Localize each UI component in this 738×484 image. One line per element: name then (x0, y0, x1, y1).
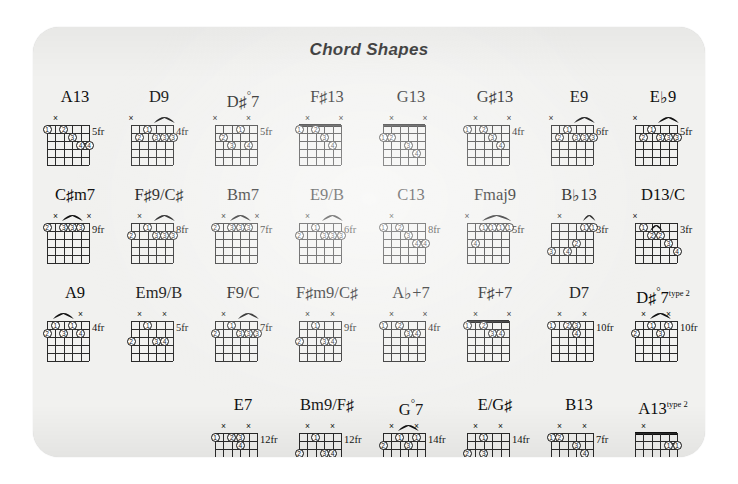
finger-dot[interactable]: 1 (211, 433, 220, 442)
finger-dot[interactable]: 1 (479, 223, 488, 232)
finger-dot[interactable]: 2 (295, 337, 304, 346)
finger-dot[interactable]: 1 (496, 223, 505, 232)
finger-dot[interactable]: 4 (572, 329, 581, 338)
chord-diagram[interactable]: G13××1234 (369, 87, 453, 183)
finger-dot[interactable]: 1 (379, 223, 388, 232)
chord-diagram[interactable]: A13type 2×11234 (621, 395, 705, 457)
finger-dot[interactable]: 4 (236, 441, 245, 450)
finger-dot[interactable]: 2 (227, 433, 236, 442)
chord-diagram[interactable]: F9/C×123337fr (201, 283, 285, 379)
finger-dot[interactable]: 3 (404, 441, 413, 450)
finger-dot[interactable]: 1 (580, 223, 589, 232)
finger-dot[interactable]: 3 (59, 329, 68, 338)
finger-dot[interactable]: 2 (395, 223, 404, 232)
chord-diagram[interactable]: D♯°7type 2××112310fr (621, 283, 705, 379)
finger-dot[interactable]: 4 (244, 141, 253, 150)
chord-diagram[interactable]: A9×112344fr (33, 283, 117, 379)
chord-diagram[interactable]: D13/C×122343fr (621, 185, 705, 281)
finger-dot[interactable]: 2 (395, 321, 404, 330)
chord-diagram[interactable]: B13××12347fr (537, 395, 621, 457)
finger-dot[interactable]: 4 (488, 457, 497, 458)
chord-diagram[interactable]: Fmaj9×111145fr (453, 185, 537, 281)
finger-dot[interactable]: 4 (328, 337, 337, 346)
chord-diagram[interactable]: F♯9/C♯×123338fr (117, 185, 201, 281)
finger-dot[interactable]: 1 (463, 125, 472, 134)
finger-dot[interactable]: 2 (572, 239, 581, 248)
finger-dot[interactable]: 4 (496, 329, 505, 338)
finger-dot[interactable]: 3 (328, 231, 337, 240)
chord-diagram[interactable]: C13×123448fr (369, 185, 453, 281)
finger-dot[interactable]: 3 (580, 133, 589, 142)
chord-diagram[interactable]: A13×123445fr (33, 87, 117, 183)
finger-dot[interactable]: 3 (244, 223, 253, 232)
finger-dot[interactable]: 1 (664, 441, 673, 450)
finger-dot[interactable]: 2 (295, 449, 304, 458)
finger-dot[interactable]: 3 (572, 441, 581, 450)
finger-dot[interactable]: 1 (227, 321, 236, 330)
finger-dot[interactable]: 2 (311, 125, 320, 134)
finger-dot[interactable]: 1 (673, 441, 682, 450)
finger-dot[interactable]: 2 (379, 441, 388, 450)
finger-dot[interactable]: 1 (143, 125, 152, 134)
chord-diagram[interactable]: F♯+7××1234 (453, 283, 537, 379)
finger-dot[interactable]: 4 (328, 449, 337, 458)
finger-dot[interactable]: 1 (412, 433, 421, 442)
finger-dot[interactable]: 4 (412, 239, 421, 248)
finger-dot[interactable]: 4 (421, 239, 430, 248)
finger-dot[interactable]: 4 (563, 247, 572, 256)
finger-dot[interactable]: 2 (59, 125, 68, 134)
chord-diagram[interactable]: Bm9/F♯××123412fr (285, 395, 369, 457)
finger-dot[interactable]: 3 (664, 133, 673, 142)
finger-dot[interactable]: 4 (76, 141, 85, 150)
finger-dot[interactable]: 2 (211, 223, 220, 232)
chord-diagram[interactable]: A♭+7××12344fr (369, 283, 453, 379)
finger-dot[interactable]: 2 (639, 133, 648, 142)
finger-dot[interactable]: 2 (127, 231, 136, 240)
finger-dot[interactable]: 2 (43, 329, 52, 338)
finger-dot[interactable]: 2 (479, 321, 488, 330)
finger-dot[interactable]: 4 (580, 449, 589, 458)
chord-diagram[interactable]: Bm7××23337fr (201, 185, 285, 281)
finger-dot[interactable]: 2 (479, 125, 488, 134)
finger-dot[interactable]: 2 (135, 133, 144, 142)
finger-dot[interactable]: 3 (244, 329, 253, 338)
finger-dot[interactable]: 1 (51, 321, 60, 330)
finger-dot[interactable]: 3 (479, 449, 488, 458)
finger-dot[interactable]: 1 (479, 433, 488, 442)
finger-dot[interactable]: 2 (295, 231, 304, 240)
finger-dot[interactable]: 1 (379, 321, 388, 330)
chord-diagram[interactable]: D9×123334fr (117, 87, 201, 183)
finger-dot[interactable]: 4 (496, 141, 505, 150)
finger-dot[interactable]: 2 (219, 133, 228, 142)
chord-diagram[interactable]: Em9/B××12345fr (117, 283, 201, 379)
finger-dot[interactable]: 4 (412, 329, 421, 338)
finger-dot[interactable]: 1 (143, 223, 152, 232)
finger-dot[interactable]: 2 (563, 321, 572, 330)
finger-dot[interactable]: 3 (320, 133, 329, 142)
finger-dot[interactable]: 3 (76, 223, 85, 232)
finger-dot[interactable]: 2 (647, 231, 656, 240)
finger-dot[interactable]: 1 (143, 321, 152, 330)
finger-dot[interactable]: 2 (211, 329, 220, 338)
chord-diagram[interactable]: B♭13×112343fr (537, 185, 621, 281)
finger-dot[interactable]: 4 (76, 329, 85, 338)
finger-dot[interactable]: 4 (85, 141, 94, 150)
finger-dot[interactable]: 2 (387, 133, 396, 142)
chord-diagram[interactable]: E7××123412fr (201, 395, 285, 457)
finger-dot[interactable]: 2 (555, 433, 564, 442)
finger-dot[interactable]: 3 (68, 133, 77, 142)
finger-dot[interactable]: 1 (43, 125, 52, 134)
finger-dot[interactable]: 2 (555, 133, 564, 142)
chord-diagram[interactable]: G♯13××12344fr (453, 87, 537, 183)
finger-dot[interactable]: 1 (647, 125, 656, 134)
finger-dot[interactable]: 3 (227, 141, 236, 150)
finger-dot[interactable]: 3 (227, 223, 236, 232)
finger-dot[interactable]: 4 (673, 247, 682, 256)
finger-dot[interactable]: 4 (160, 337, 169, 346)
finger-dot[interactable]: 3 (664, 239, 673, 248)
finger-dot[interactable]: 4 (471, 239, 480, 248)
finger-dot[interactable]: 1 (68, 321, 77, 330)
finger-dot[interactable]: 3 (488, 133, 497, 142)
chord-diagram[interactable]: C♯m7××23339fr (33, 185, 117, 281)
finger-dot[interactable]: 3 (59, 223, 68, 232)
